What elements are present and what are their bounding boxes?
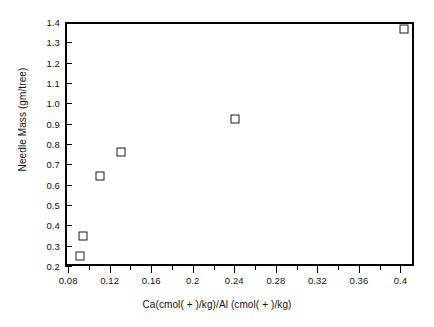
plot-area [65, 22, 414, 266]
y-axis-tick-label: 0.2 [34, 261, 60, 272]
x-axis-tick [359, 266, 360, 273]
data-point-marker [399, 25, 408, 34]
x-axis-minor-tick [172, 266, 173, 270]
x-axis-minor-tick [89, 266, 90, 270]
x-axis-tick-label: 0.32 [308, 275, 327, 286]
y-axis-tick [65, 246, 72, 247]
y-axis-tick [65, 144, 72, 145]
x-axis-tick-label: 0.08 [59, 275, 78, 286]
x-axis-tick [68, 266, 69, 273]
x-axis-tick [151, 266, 152, 273]
y-axis-tick-label: 0.8 [34, 139, 60, 150]
y-axis-tick [65, 42, 72, 43]
data-point-marker [75, 251, 84, 260]
x-axis-minor-tick [338, 266, 339, 270]
y-axis-tick [65, 205, 72, 206]
x-axis-tick-label: 0.16 [142, 275, 161, 286]
x-axis-tick-label: 0.12 [100, 275, 119, 286]
data-point-marker [117, 148, 126, 157]
y-axis-tick [65, 124, 72, 125]
y-axis-tick [65, 185, 72, 186]
y-axis-tick-label: 0.7 [34, 159, 60, 170]
y-axis-tick [65, 83, 72, 84]
y-axis-tick-label: 0.9 [34, 118, 60, 129]
data-point-marker [231, 114, 240, 123]
y-axis-tick-label: 1.4 [34, 17, 60, 28]
y-axis-tick-label: 1.3 [34, 37, 60, 48]
x-axis-title: Ca(cmol( + )/kg)/Al (cmol( + )/kg) [0, 299, 434, 310]
x-axis-minor-tick [380, 266, 381, 270]
y-axis-tick-label: 1.1 [34, 78, 60, 89]
y-axis-tick-label: 0.4 [34, 220, 60, 231]
x-axis-tick [317, 266, 318, 273]
y-axis-tick-label: 1.2 [34, 57, 60, 68]
x-axis-tick [400, 266, 401, 273]
x-axis-tick [193, 266, 194, 273]
x-axis-tick-label: 0.24 [225, 275, 244, 286]
x-axis-tick-label: 0.4 [394, 275, 408, 286]
y-axis-tick [65, 164, 72, 165]
y-axis-tick-label: 0.3 [34, 240, 60, 251]
y-axis-tick [65, 22, 72, 23]
y-axis-tick [65, 225, 72, 226]
y-axis-title: Needle Mass (gm/tree) [17, 30, 28, 210]
x-axis-tick [110, 266, 111, 273]
data-point-marker [78, 231, 87, 240]
y-axis-tick [65, 63, 72, 64]
y-axis-tick-label: 1.0 [34, 98, 60, 109]
y-axis-tick-label: 0.6 [34, 179, 60, 190]
y-axis-tick-label: 0.5 [34, 200, 60, 211]
x-axis-minor-tick [297, 266, 298, 270]
x-axis-tick-label: 0.2 [186, 275, 200, 286]
y-axis-tick [65, 103, 72, 104]
x-axis-tick [234, 266, 235, 273]
x-axis-tick-label: 0.36 [349, 275, 368, 286]
x-axis-minor-tick [130, 266, 131, 270]
scatter-chart-figure: 0.20.30.40.50.60.70.80.91.01.11.21.31.4 … [0, 0, 434, 327]
data-point-marker [96, 171, 105, 180]
x-axis-minor-tick [214, 266, 215, 270]
x-axis-tick [276, 266, 277, 273]
x-axis-minor-tick [255, 266, 256, 270]
x-axis-tick-label: 0.28 [266, 275, 285, 286]
